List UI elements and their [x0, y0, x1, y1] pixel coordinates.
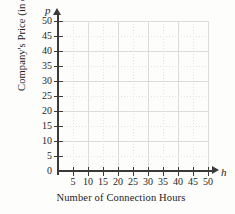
plot-area — [58, 21, 208, 171]
gridline — [58, 126, 208, 127]
y-axis-tick — [54, 21, 63, 22]
y-axis-tick-labels: 05101520253035404550 — [26, 0, 52, 214]
y-axis-title: Company's Price (in dollars) — [16, 0, 27, 105]
x-axis-tick — [148, 167, 149, 176]
gridline — [58, 81, 208, 82]
y-axis-tick-label: 0 — [28, 165, 52, 176]
x-axis-variable-label: h — [221, 166, 227, 178]
y-axis-line — [57, 14, 59, 175]
y-axis-tick-label: 20 — [28, 105, 52, 116]
gridline — [118, 21, 119, 171]
y-axis-tick-label: 5 — [28, 150, 52, 161]
y-axis-tick-label: 15 — [28, 120, 52, 131]
x-axis-tick-label: 50 — [197, 176, 219, 187]
gridline — [88, 21, 89, 171]
gridline — [58, 111, 208, 112]
gridline — [58, 21, 208, 22]
y-axis-tick — [54, 156, 63, 157]
x-axis-tick — [163, 167, 164, 176]
y-axis-tick — [54, 81, 63, 82]
y-axis-tick-label: 30 — [28, 75, 52, 86]
x-axis-tick — [103, 167, 104, 176]
y-axis-tick — [54, 111, 63, 112]
x-axis-tick — [133, 167, 134, 176]
gridline — [178, 21, 179, 171]
y-axis-tick-label: 10 — [28, 135, 52, 146]
x-axis-title: Number of Connection Hours — [28, 192, 214, 203]
x-axis-tick — [73, 167, 74, 176]
gridline — [58, 141, 208, 142]
y-axis-tick — [54, 66, 63, 67]
y-axis-tick — [54, 51, 63, 52]
y-axis-tick-label: 40 — [28, 45, 52, 56]
x-axis-tick — [193, 167, 194, 176]
gridline — [58, 156, 208, 157]
y-axis-tick — [54, 96, 63, 97]
y-axis-tick — [54, 141, 63, 142]
gridline — [58, 51, 208, 52]
x-axis-tick — [88, 167, 89, 176]
y-axis-tick — [54, 126, 63, 127]
y-axis-tick-label: 25 — [28, 90, 52, 101]
gridline — [148, 21, 149, 171]
graph-figure: Company's Price (in dollars) p h 0510152… — [0, 0, 235, 214]
y-axis-tick — [54, 36, 63, 37]
gridline — [208, 21, 209, 171]
y-axis-tick-label: 45 — [28, 30, 52, 41]
x-axis-line — [57, 170, 215, 172]
gridline — [58, 96, 208, 97]
x-axis-tick — [118, 167, 119, 176]
y-axis-tick-label: 50 — [28, 15, 52, 26]
y-axis-arrow-icon — [53, 8, 61, 15]
gridline — [58, 36, 208, 37]
gridline — [58, 66, 208, 67]
y-axis-tick-label: 35 — [28, 60, 52, 71]
x-axis-tick — [208, 167, 209, 176]
gridlines — [58, 21, 208, 171]
x-axis-tick — [178, 167, 179, 176]
x-axis-arrow-icon — [212, 166, 219, 174]
